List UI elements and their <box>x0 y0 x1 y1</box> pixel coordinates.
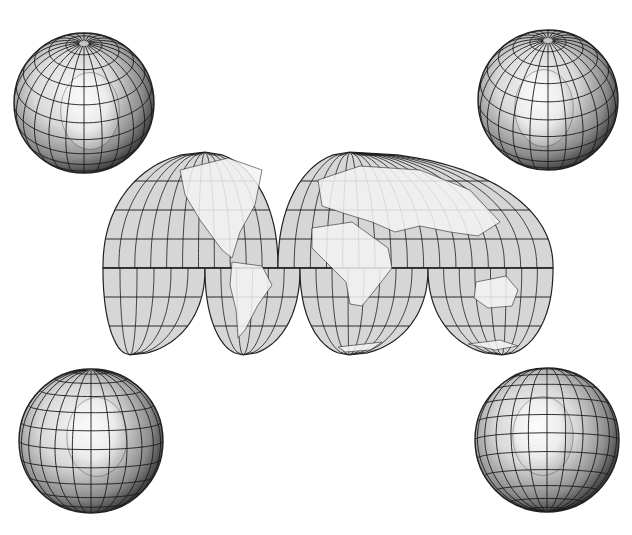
interrupted-world-map <box>103 152 553 355</box>
world-projection-figure <box>0 0 632 535</box>
globe-australia <box>475 368 619 512</box>
globe-graticule <box>475 368 619 512</box>
globe-north-america <box>14 33 154 173</box>
globe-south-america <box>19 369 163 513</box>
globe-asia <box>478 30 618 170</box>
globe-landmass <box>67 397 127 476</box>
globe-landmass <box>61 73 120 150</box>
figure-canvas <box>0 0 632 535</box>
